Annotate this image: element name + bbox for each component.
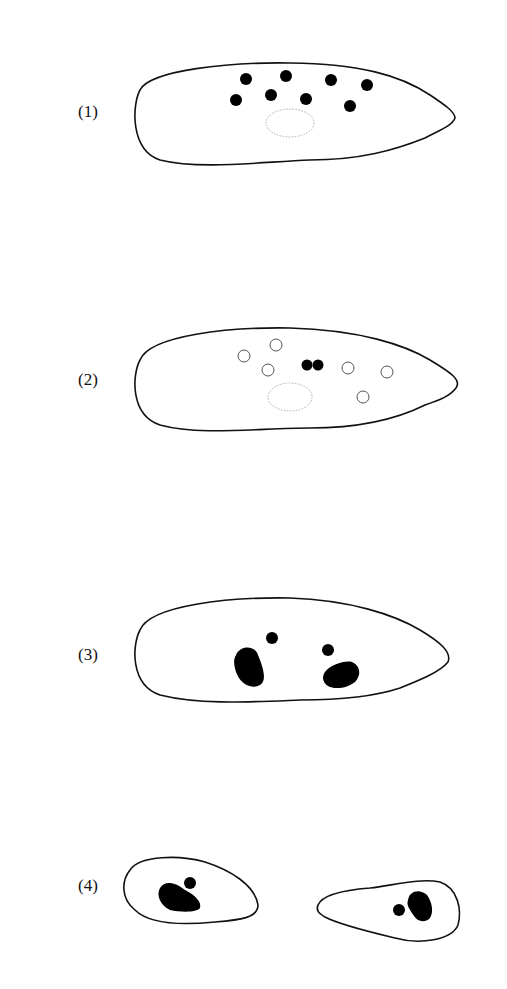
cell-1 xyxy=(135,63,455,165)
figure-drawing xyxy=(0,0,507,989)
panel-1: (1) (2) (3) (4) xyxy=(0,0,507,989)
cell-4a xyxy=(124,857,258,923)
cell-3 xyxy=(135,598,449,702)
cell-4b xyxy=(317,881,459,941)
cell-2 xyxy=(135,328,458,431)
